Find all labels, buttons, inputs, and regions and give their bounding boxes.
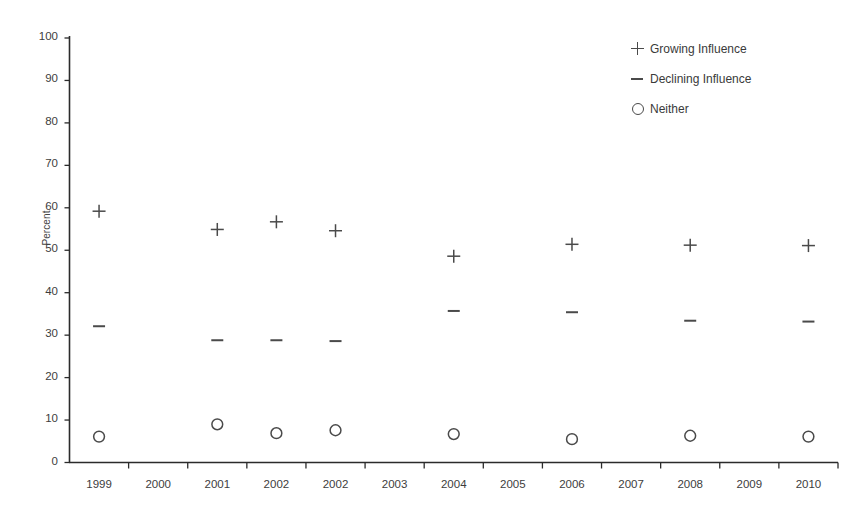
data-point-circle bbox=[94, 431, 105, 442]
y-tick-label: 0 bbox=[24, 455, 58, 467]
chart-container: Percent 1009080706050403020100 199920002… bbox=[0, 0, 857, 520]
x-tick-label: 2004 bbox=[424, 478, 484, 490]
data-point-plus bbox=[93, 205, 106, 218]
legend-item-declining-influence: Declining Influence bbox=[630, 71, 845, 101]
data-point-circle bbox=[212, 419, 223, 430]
data-point-plus bbox=[802, 239, 815, 252]
legend-label: Growing Influence bbox=[650, 41, 747, 57]
x-tick-label: 2006 bbox=[542, 478, 602, 490]
data-point-plus bbox=[684, 239, 697, 252]
x-tick-label: 2008 bbox=[660, 478, 720, 490]
x-tick-label: 2002 bbox=[246, 478, 306, 490]
y-tick-label: 40 bbox=[24, 285, 58, 297]
data-point-plus bbox=[447, 250, 460, 263]
plus-marker-icon bbox=[630, 41, 646, 57]
y-tick-label: 20 bbox=[24, 370, 58, 382]
chart-legend: Growing Influence Declining Influence Ne… bbox=[630, 41, 845, 131]
data-point-circle bbox=[685, 430, 696, 441]
x-tick-label: 2002 bbox=[306, 478, 366, 490]
data-point-circle bbox=[803, 431, 814, 442]
data-point-circle bbox=[271, 428, 282, 439]
legend-label: Declining Influence bbox=[650, 71, 751, 87]
y-tick-label: 90 bbox=[24, 72, 58, 84]
x-tick-label: 1999 bbox=[69, 478, 129, 490]
legend-label: Neither bbox=[650, 101, 689, 117]
circle-marker-icon bbox=[630, 101, 646, 117]
data-point-plus bbox=[270, 215, 283, 228]
minus-marker-icon bbox=[630, 71, 646, 87]
data-markers bbox=[93, 205, 815, 445]
y-tick-label: 10 bbox=[24, 412, 58, 424]
data-point-circle bbox=[567, 434, 578, 445]
x-tick-label: 2009 bbox=[719, 478, 779, 490]
x-tick-label: 2003 bbox=[365, 478, 425, 490]
data-point-circle bbox=[448, 429, 459, 440]
y-tick-label: 30 bbox=[24, 327, 58, 339]
x-tick-label: 2000 bbox=[128, 478, 188, 490]
x-tick-label: 2005 bbox=[483, 478, 543, 490]
data-point-circle bbox=[330, 425, 341, 436]
y-tick-label: 50 bbox=[24, 242, 58, 254]
x-tick-label: 2010 bbox=[778, 478, 838, 490]
y-tick-label: 60 bbox=[24, 200, 58, 212]
data-point-plus bbox=[565, 238, 578, 251]
data-point-plus bbox=[211, 223, 224, 236]
y-tick-label: 70 bbox=[24, 157, 58, 169]
x-axis-ticks bbox=[129, 463, 838, 469]
legend-item-growing-influence: Growing Influence bbox=[630, 41, 845, 71]
x-tick-label: 2007 bbox=[601, 478, 661, 490]
y-tick-label: 80 bbox=[24, 115, 58, 127]
data-point-plus bbox=[329, 224, 342, 237]
y-tick-label: 100 bbox=[24, 30, 58, 42]
x-tick-label: 2001 bbox=[187, 478, 247, 490]
legend-item-neither: Neither bbox=[630, 101, 845, 131]
